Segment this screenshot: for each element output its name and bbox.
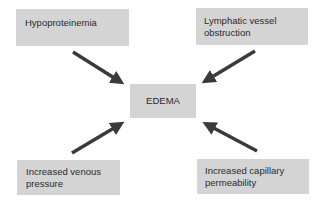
center-box-edema: EDEMA <box>130 84 196 118</box>
cause-label-line2: obstruction <box>204 27 308 39</box>
arrow-top-right <box>207 51 255 80</box>
cause-label-line2: pressure <box>26 178 120 190</box>
cause-label-line1: Increased venous <box>26 166 120 178</box>
arrow-bottom-left <box>72 125 119 153</box>
cause-label-line1: Lymphatic vessel <box>204 15 308 27</box>
cause-box-capillary-permeability: Increased capillary permeability <box>197 159 309 194</box>
cause-label: Hypoproteinemia <box>25 17 129 29</box>
cause-box-venous-pressure: Increased venous pressure <box>17 160 120 195</box>
cause-box-hypoproteinemia: Hypoproteinemia <box>16 9 129 46</box>
arrow-top-left <box>73 52 119 81</box>
arrow-bottom-right <box>208 125 257 151</box>
cause-label-line2: permeability <box>205 177 309 189</box>
center-label: EDEMA <box>130 95 196 107</box>
cause-box-lymphatic-obstruction: Lymphatic vessel obstruction <box>196 8 308 45</box>
cause-label-line1: Increased capillary <box>205 165 309 177</box>
